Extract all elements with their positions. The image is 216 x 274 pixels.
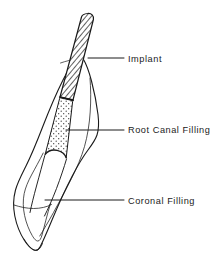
tooth-diagram-figure: Implant Root Canal Filling Coronal Filli… (0, 0, 216, 274)
diagram-canvas: Implant Root Canal Filling Coronal Filli… (0, 0, 216, 274)
tooth-outline-group (14, 56, 99, 250)
label-implant: Implant (128, 54, 162, 64)
labels-group: Implant Root Canal Filling Coronal Filli… (128, 54, 210, 206)
label-coronal-filling: Coronal Filling (128, 196, 195, 206)
label-root-canal-filling: Root Canal Filling (128, 125, 210, 135)
